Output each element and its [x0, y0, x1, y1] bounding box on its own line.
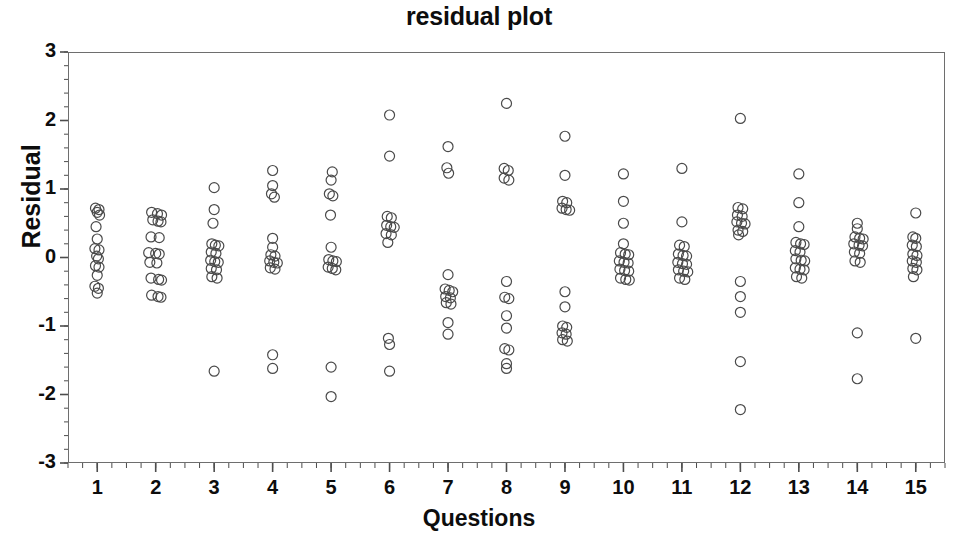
y-tick-label: 2 [18, 108, 56, 131]
chart-title: residual plot [0, 2, 958, 31]
x-tick-label: 3 [194, 476, 234, 499]
x-axis-label: Questions [0, 505, 958, 532]
x-tick-label: 9 [545, 476, 585, 499]
x-tick-label: 7 [428, 476, 468, 499]
x-tick-label: 4 [253, 476, 293, 499]
x-tick-label: 5 [311, 476, 351, 499]
y-tick-label: -2 [18, 382, 56, 405]
x-tick-label: 15 [896, 476, 936, 499]
x-tick-label: 14 [837, 476, 877, 499]
y-tick-label: -3 [18, 450, 56, 473]
residual-plot-figure: residual plot Residual 3210-1-2-3 123456… [0, 0, 958, 534]
x-tick-label: 8 [487, 476, 527, 499]
x-tick-label: 11 [662, 476, 702, 499]
plot-area [68, 52, 945, 463]
y-tick-label: -1 [18, 313, 56, 336]
y-major-ticks [60, 52, 68, 463]
x-major-ticks [97, 463, 916, 472]
y-tick-label: 0 [18, 245, 56, 268]
x-tick-label: 12 [720, 476, 760, 499]
y-tick-label: 1 [18, 176, 56, 199]
x-tick-label: 1 [77, 476, 117, 499]
y-tick-label: 3 [18, 39, 56, 62]
x-tick-label: 2 [136, 476, 176, 499]
x-minor-ticks [68, 463, 945, 468]
x-tick-label: 10 [603, 476, 643, 499]
x-tick-label: 6 [370, 476, 410, 499]
x-tick-label: 13 [779, 476, 819, 499]
